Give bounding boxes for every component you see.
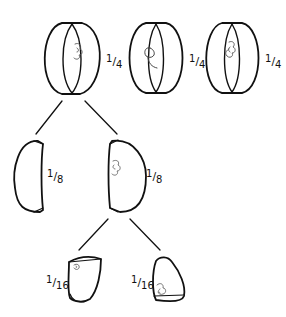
apple-sixteenth-1 [68, 257, 101, 302]
fraction-label-sixteenth-1: 1/16 [46, 277, 69, 288]
fraction-label-sixteenth-2: 1/16 [131, 277, 154, 288]
core-icon [74, 264, 79, 269]
fraction-label-eighth-1: 1/8 [47, 171, 63, 182]
fraction-label-quarter-1: 1/4 [106, 56, 122, 67]
fraction-label-quarter-2: 1/4 [189, 56, 205, 67]
fraction-label-quarter-3: 1/4 [265, 56, 281, 67]
connector-line [130, 219, 160, 250]
fraction-label-eighth-2: 1/8 [146, 171, 162, 182]
apple-quarter-1 [45, 23, 100, 94]
core-icon [112, 160, 120, 175]
core-icon [157, 284, 166, 295]
core-icon [226, 41, 235, 57]
connector-line [79, 219, 108, 250]
apple-sixteenth-2 [153, 257, 184, 301]
connector-line [36, 101, 62, 134]
apple-quarter-2 [130, 23, 183, 93]
apple-eighth-1 [14, 141, 43, 212]
apple-quarter-3 [206, 23, 258, 93]
connector-line [85, 101, 117, 134]
core-icon [145, 48, 157, 68]
apple-cutting-diagram [0, 0, 286, 317]
apple-eighth-2 [109, 140, 147, 212]
